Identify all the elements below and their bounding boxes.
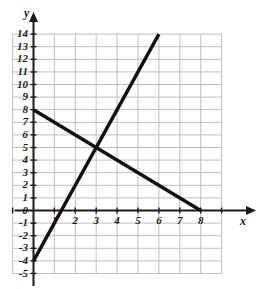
y-axis-label: y bbox=[24, 7, 29, 19]
y-tick-9: 9 bbox=[4, 91, 28, 102]
y-tick-1: 1 bbox=[4, 192, 28, 203]
x-tick-6: 6 bbox=[149, 215, 169, 226]
x-tick-2: 2 bbox=[65, 215, 85, 226]
y-tick-12: 12 bbox=[4, 53, 28, 64]
x-tick-8: 8 bbox=[191, 215, 211, 226]
x-tick-7: 7 bbox=[170, 215, 190, 226]
y-tick-2: 2 bbox=[4, 179, 28, 190]
y-tick--2: -2 bbox=[4, 230, 28, 241]
x-axis-label: x bbox=[240, 215, 246, 227]
y-tick-7: 7 bbox=[4, 116, 28, 127]
x-tick-5: 5 bbox=[128, 215, 148, 226]
y-tick--5: -5 bbox=[4, 268, 28, 279]
y-tick-13: 13 bbox=[4, 41, 28, 52]
y-tick--4: -4 bbox=[4, 255, 28, 266]
y-tick-6: 6 bbox=[4, 129, 28, 140]
x-tick-4: 4 bbox=[107, 215, 127, 226]
x-tick-1: 1 bbox=[44, 215, 64, 226]
y-tick-0: 0 bbox=[4, 205, 28, 216]
grid-lines-vertical bbox=[13, 34, 222, 273]
y-tick-8: 8 bbox=[4, 104, 28, 115]
y-tick-4: 4 bbox=[4, 154, 28, 165]
x-tick-3: 3 bbox=[86, 215, 106, 226]
y-tick--3: -3 bbox=[4, 242, 28, 253]
y-tick-5: 5 bbox=[4, 142, 28, 153]
axis-lines bbox=[15, 12, 256, 286]
y-tick-14: 14 bbox=[4, 28, 28, 39]
y-tick--1: -1 bbox=[4, 217, 28, 228]
graph-figure: 14131211109876543210-1-2-3-4-5 12345678 … bbox=[0, 0, 259, 289]
y-tick-3: 3 bbox=[4, 167, 28, 178]
y-tick-11: 11 bbox=[4, 66, 28, 77]
y-tick-10: 10 bbox=[4, 79, 28, 90]
coordinate-plane-svg bbox=[0, 0, 259, 289]
